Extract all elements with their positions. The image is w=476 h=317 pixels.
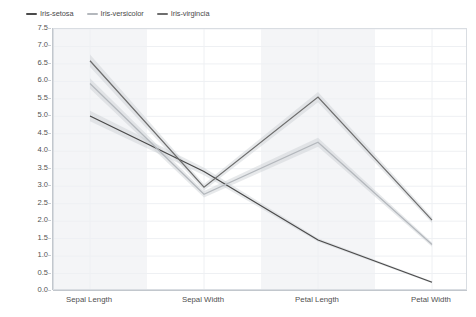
y-axis-tick-label: 7.0 [22,41,48,49]
y-axis-tick-label: 2.5 [22,199,48,207]
y-axis-tick-mark [47,45,51,46]
y-axis-tick-label: 3.5 [22,164,48,172]
y-axis-tick-mark [47,203,51,204]
column-bands [54,29,375,290]
y-axis-tick-label: 6.5 [22,59,48,67]
y-axis-tick-mark [47,238,51,239]
plot-area [53,28,467,290]
y-axis-tick-mark [47,150,51,151]
x-axis-tick-label: Sepal Width [182,296,224,304]
legend-label-versicolor: Iris-versicolor [101,10,144,17]
legend-swatch-virgincia [157,13,168,15]
legend-item-virgincia[interactable]: Iris-virgincia [157,10,210,17]
y-axis-tick-mark [47,80,51,81]
y-axis-tick-label: 2.0 [22,216,48,224]
y-axis-tick-label: 6.0 [22,76,48,84]
y-axis-tick-mark [47,255,51,256]
y-axis-tick-mark [47,273,51,274]
legend-item-setosa[interactable]: Iris-setosa [26,10,74,17]
y-axis-tick-mark [47,185,51,186]
y-axis-tick-mark [47,63,51,64]
legend-item-versicolor[interactable]: Iris-versicolor [87,10,144,17]
y-axis-tick-label: 1.5 [22,234,48,242]
legend-swatch-setosa [26,13,37,15]
x-axis-line [53,290,467,291]
y-axis-tick-label: 1.0 [22,251,48,259]
y-axis-tick-mark [47,98,51,99]
x-axis-tick-label: Sepal Length [66,296,112,304]
x-axis-tick-label: Petal Width [411,296,451,304]
y-axis-tick-mark [47,115,51,116]
plot-svg [54,29,467,290]
y-axis-tick-mark [47,133,51,134]
legend-label-virgincia: Iris-virgincia [171,10,210,17]
x-axis-tick-label: Petal Length [295,296,339,304]
chart-legend: Iris-setosa Iris-versicolor Iris-virginc… [26,7,209,21]
x-axis-tick-labels: Sepal LengthSepal WidthPetal LengthPetal… [53,294,467,308]
y-axis-tick-label: 0.5 [22,269,48,277]
y-axis-tick-label: 0.0 [22,286,48,294]
y-axis-tick-mark [47,290,51,291]
y-axis-tick-mark [47,168,51,169]
y-axis-tick-label: 4.5 [22,129,48,137]
y-axis-tick-mark [47,220,51,221]
y-axis-tick-label: 5.5 [22,94,48,102]
y-axis-tick-label: 3.0 [22,181,48,189]
y-axis-tick-label: 5.0 [22,111,48,119]
y-axis-tick-labels: 0.00.51.01.52.02.53.03.54.04.55.05.56.06… [18,28,48,290]
legend-label-setosa: Iris-setosa [40,10,74,17]
y-axis-tick-mark [47,28,51,29]
y-axis-tick-label: 7.5 [22,24,48,32]
y-axis-tick-label: 4.0 [22,146,48,154]
legend-swatch-versicolor [87,13,98,15]
chart-container: Iris-setosa Iris-versicolor Iris-virginc… [0,0,476,317]
